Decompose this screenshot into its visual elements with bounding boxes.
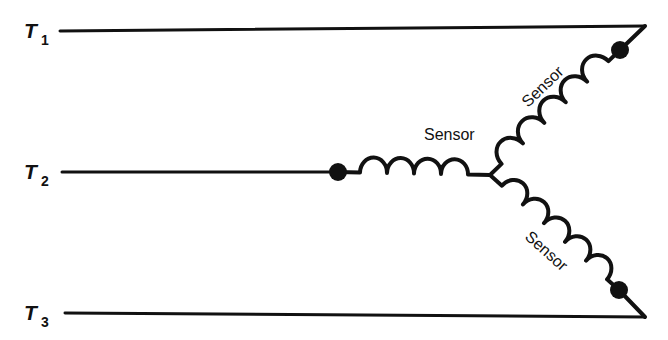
schematic-canvas: T1T2T3 SensorSensorSensor (0, 0, 668, 340)
sensor-wye-schematic: T1T2T3 SensorSensorSensor (0, 0, 668, 340)
converging-edge-group (619, 26, 645, 317)
coil-sensor-upper (478, 38, 620, 175)
label-t3-subscript: 3 (41, 314, 49, 330)
sensor-coil-group (338, 38, 629, 290)
transmission-line-t3 (65, 313, 645, 317)
node-t2-dot (329, 163, 347, 181)
label-t2-base: T (24, 160, 39, 183)
label-t3-base: T (24, 301, 39, 324)
node-t1-dot (611, 41, 629, 59)
transmission-line-t1 (60, 26, 645, 31)
sensor-label-sensor-horizontal: Sensor (424, 126, 475, 143)
coil-sensor-horizontal (338, 157, 490, 175)
label-t1-base: T (24, 19, 39, 42)
label-t1-subscript: 1 (41, 32, 49, 48)
sensor-label-sensor-lower: Sensor (522, 228, 572, 275)
node-t3-dot (610, 281, 628, 299)
label-t2-subscript: 2 (41, 173, 49, 189)
line-label-group: T1T2T3 (24, 19, 49, 330)
